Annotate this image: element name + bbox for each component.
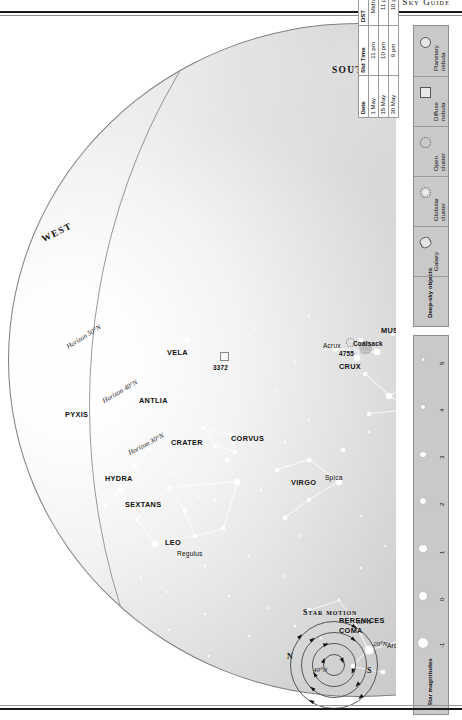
cell-dst: Midnight [368,0,378,25]
star [308,419,310,421]
magnitude-dot [419,545,426,552]
star [360,515,362,517]
star [276,389,278,391]
star [208,319,210,321]
star [254,329,256,331]
magnitude-dot [421,405,425,409]
deep-sky-label: 3372 [213,364,228,371]
constellation-label: CRATER [171,438,203,447]
constellation-label: SEXTANS [125,500,161,509]
cell-std: 10 pm [378,25,388,76]
planetary-nebula-icon [420,37,431,48]
legend-divider [414,76,448,77]
magnitude-label: 0 [438,597,445,600]
magnitude-dot [420,498,426,504]
star [204,613,206,615]
legend-item-label: cluster [439,203,446,221]
constellation-label: PYXIS [65,410,88,419]
star-chart-page: Monthly Sky Guide PYXISANTLIAVELACRATERC… [0,0,462,720]
legend-item-label: Planetary [432,45,439,71]
magnitude-dot [419,592,427,600]
table-row: 15 May 10 pm 11 pm [378,0,388,118]
cell-date: 15 May [378,76,388,118]
constellation-label: VIRGO [291,478,316,487]
visibility-times-table: Date Std Time DST 1 May 11 pm Midnight 1… [358,22,402,162]
legend-divider [414,126,448,127]
col-date: Date [359,76,369,118]
table-row: 30 May 9 pm 10 pm [388,0,398,118]
magnitude-label: 2 [438,503,445,506]
star-name-label: Spica [325,474,343,481]
magnitude-legend-title: Star magnitudes [426,658,433,706]
magnitude-label: 5 [438,361,445,364]
star-motion-diagram: Star motion N S [285,608,397,704]
magnitude-label: 3 [438,456,445,459]
legend-item-label: Galaxy [432,252,439,271]
magnitude-dot [422,358,425,361]
legend-item-label: Globular [432,198,439,221]
galaxy-ellipse-icon [418,235,433,250]
deep-sky-label: Coalsack [353,340,383,347]
cell-date: 30 May [388,76,398,118]
star [360,567,362,569]
star [198,497,200,499]
star-name-label: Regulus [177,550,203,557]
star-motion-arrows [285,608,397,704]
star [228,375,230,377]
deep-sky-legend: Deep-sky objectsGalaxyGlobularclusterOpe… [413,25,449,327]
legend-divider [414,176,448,177]
legend-panel: Deep-sky objectsGalaxyGlobularclusterOpe… [404,17,458,705]
deep-sky-label: 4755 [339,350,354,357]
diffuse-3372-glyph [220,353,229,362]
legend-item-label: nebula [439,53,446,71]
magnitude-label: -1 [438,643,445,648]
legend-divider [414,276,448,277]
constellation-label: ANTLIA [139,396,168,405]
col-std-time: Std Time [359,25,369,76]
open-cluster-icon [420,137,431,148]
star [228,595,230,597]
constellation-label: VELA [167,348,188,357]
legend-item-label: cluster [439,153,446,171]
cell-dst: 10 pm [388,0,398,25]
table-row: 1 May 11 pm Midnight [368,0,378,118]
constellation-label: HYDRA [105,474,133,483]
star [268,607,270,609]
magnitude-dot [418,638,428,648]
magnitude-legend: Star magnitudes-1012345 [413,335,449,715]
star [341,448,344,451]
constellation-label: MUSCA [381,326,396,335]
magnitude-label: 1 [438,550,445,553]
globular-cluster-icon [420,187,431,198]
star [208,655,210,657]
star [168,629,170,631]
star [238,407,240,409]
horizon-dome: PYXISANTLIAVELACRATERCORVUSHYDRASEXTANSL… [8,23,396,697]
footer-rule-thick [0,708,462,710]
cell-dst: 11 pm [378,0,388,25]
cell-std: 9 pm [388,25,398,76]
constellation-label: CORVUS [231,434,264,443]
table-header-row: Date Std Time DST [359,0,369,118]
legend-item-label: Open [432,156,439,171]
constellation-label: CRUX [339,362,361,371]
star [248,555,250,557]
star [298,535,300,537]
star-name-label: Acrux [323,342,341,349]
diffuse-nebula-icon [420,87,431,98]
magnitude-dot [420,452,425,457]
star [225,459,228,462]
page-title: Monthly Sky Guide [150,0,450,7]
cell-std: 11 pm [368,25,378,76]
cell-date: 1 May [368,76,378,118]
legend-item-label: nebula [439,103,446,121]
star [308,315,310,317]
star [178,395,180,397]
col-dst: DST [359,0,369,25]
footer-rule-thin [0,705,462,706]
constellation-label: LEO [165,538,181,547]
star [368,431,370,433]
legend-item-label: Diffuse [432,102,439,121]
sky-dome-rotator: PYXISANTLIAVELACRATERCORVUSHYDRASEXTANSL… [0,17,396,705]
legend-divider [414,226,448,227]
